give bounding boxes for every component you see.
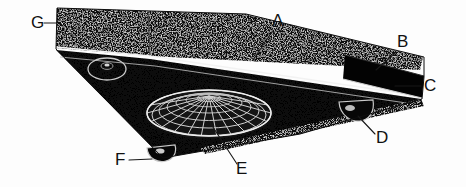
callout-label-b: B bbox=[397, 32, 408, 51]
port-circular-port-highlight bbox=[104, 64, 109, 67]
leader-f bbox=[129, 159, 152, 160]
callout-label-a: A bbox=[272, 11, 284, 30]
dome-grid-array bbox=[145, 90, 273, 139]
callout-label-f: F bbox=[115, 150, 125, 169]
starboard-pod-highlight bbox=[345, 105, 355, 111]
callout-label-g: G bbox=[31, 13, 44, 32]
figure-root: G A B C D E F bbox=[0, 0, 466, 187]
callout-label-e: E bbox=[236, 159, 247, 178]
forward-pod-highlight bbox=[156, 148, 165, 153]
callout-label-d: D bbox=[376, 128, 388, 147]
patent-figure-svg: G A B C D E F bbox=[0, 0, 466, 187]
craft-body bbox=[56, 8, 424, 161]
callout-label-c: C bbox=[424, 76, 436, 95]
